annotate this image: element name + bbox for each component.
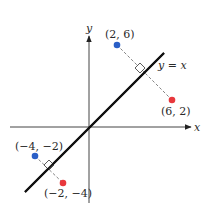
label-2-6: (2, 6) [105,28,135,41]
label-6-2: (6, 2) [161,105,191,118]
point-2-6 [114,42,121,49]
y-axis-label: y [85,22,93,35]
reflection-diagram: x y y = x (2, 6) (6, 2) (−4, −2) (−2, −4… [0,0,208,212]
label-neg4-neg2: (−4, −2) [15,140,63,153]
x-axis-label: x [194,121,201,134]
label-neg2-neg4: (−2, −4) [44,187,92,200]
point-6-2 [169,97,176,104]
line-label: y = x [157,59,187,72]
line-y-equals-x-overlay [25,53,164,192]
point-neg2-neg4 [60,180,67,187]
point-neg4-neg2 [32,153,39,160]
